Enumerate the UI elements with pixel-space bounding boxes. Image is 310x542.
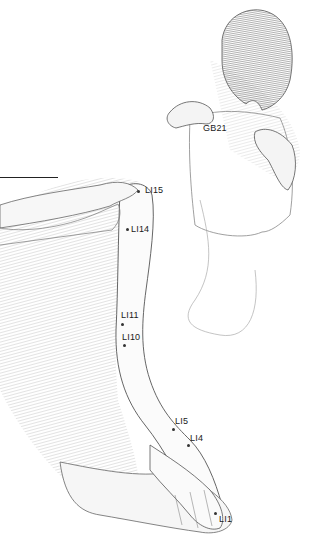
acupressure-illustration: GB21 LI15 LI14 LI11 LI10 LI5 LI4 LI1 xyxy=(0,0,310,542)
point-label-li4: LI4 xyxy=(190,434,203,443)
point-label-li14: LI14 xyxy=(131,225,149,234)
point-dot-li10 xyxy=(123,344,126,347)
point-label-li1: LI1 xyxy=(219,515,232,524)
point-dot-li1 xyxy=(214,512,217,515)
sketch-artwork xyxy=(0,0,310,542)
point-label-li5: LI5 xyxy=(175,417,188,426)
divider-line xyxy=(0,177,58,178)
point-dot-li5 xyxy=(172,428,175,431)
point-label-gb21: GB21 xyxy=(203,124,227,133)
point-dot-li11 xyxy=(121,323,124,326)
point-label-li11: LI11 xyxy=(121,311,139,320)
point-label-li10: LI10 xyxy=(122,333,140,342)
point-dot-li14 xyxy=(126,228,129,231)
point-dot-li4 xyxy=(187,444,190,447)
point-label-li15: LI15 xyxy=(145,186,163,195)
point-dot-li15 xyxy=(137,190,140,193)
